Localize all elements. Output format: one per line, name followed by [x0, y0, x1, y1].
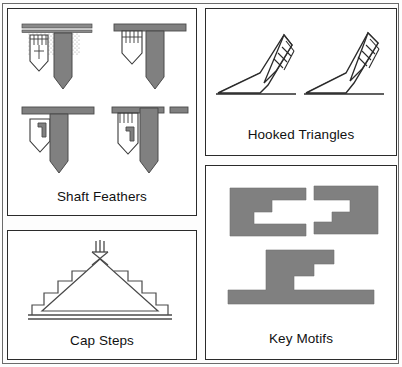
panel-key-motifs: Key Motifs: [205, 165, 397, 360]
panel-shaft-feathers: Shaft Feathers: [7, 8, 197, 216]
motif-cap-step-triangle: [28, 240, 172, 319]
motif-shaft-feather-barbed: [114, 24, 186, 89]
panel-label-hooked-triangles: Hooked Triangles: [206, 128, 396, 155]
panel-label-cap-steps: Cap Steps: [8, 334, 196, 359]
panel-label-key-motifs: Key Motifs: [206, 332, 396, 359]
shaft-feathers-svg: [10, 15, 194, 185]
motif-shaft-feather-hooked: [22, 107, 94, 173]
motif-shaft-feather-stippled: [22, 24, 92, 89]
cap-steps-svg: [10, 237, 194, 329]
motif-hooked-triangle-left: [216, 35, 296, 94]
key-motifs-artwork: [206, 166, 396, 332]
hooked-triangles-artwork: [206, 9, 396, 128]
key-motifs-svg: [208, 174, 394, 324]
motif-figure: Shaft Feathers: [0, 0, 402, 367]
shaft-feathers-artwork: [8, 9, 196, 190]
panel-hooked-triangles: Hooked Triangles: [205, 8, 397, 156]
motif-key-lower: [228, 250, 374, 304]
hooked-triangles-svg: [208, 23, 394, 115]
cap-steps-artwork: [8, 231, 196, 334]
motif-key-upper-left: [230, 188, 306, 236]
panel-cap-steps: Cap Steps: [7, 230, 197, 360]
motif-key-upper-right: [314, 186, 378, 234]
motif-hooked-triangle-right: [304, 33, 384, 94]
panel-label-shaft-feathers: Shaft Feathers: [8, 190, 196, 215]
motif-shaft-feather-barbed-hooked: [112, 107, 188, 173]
